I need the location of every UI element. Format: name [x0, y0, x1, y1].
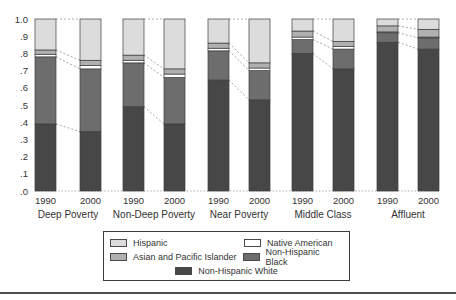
bar-segment: [35, 57, 56, 124]
bar-segment: [418, 49, 439, 191]
bar-segment: [164, 124, 185, 191]
bar-segment: [35, 54, 56, 57]
group-label: Non-Deep Poverty: [113, 209, 195, 220]
bar-segment: [249, 68, 270, 71]
connector-line: [144, 107, 164, 124]
bar-segment: [208, 48, 229, 51]
connector-line: [56, 124, 80, 132]
bar-segment: [292, 31, 313, 37]
connector-line: [313, 31, 333, 41]
bar-segment: [292, 53, 313, 191]
bar-segment: [208, 51, 229, 80]
connector-line: [56, 57, 80, 69]
connector-line: [398, 33, 418, 38]
group-label: Affluent: [391, 209, 425, 220]
bar-segment: [333, 69, 354, 191]
y-tick-label: .8: [20, 48, 28, 59]
legend-box: Hispanic Native American Asian and Pacif…: [103, 231, 350, 281]
connector-line: [313, 40, 333, 49]
bar-segment: [377, 19, 398, 26]
bar-segment: [164, 74, 185, 77]
y-tick-label: .1: [20, 168, 28, 179]
legend-item-non-hispanic-white: Non-Hispanic White: [175, 266, 278, 276]
bar-segment: [249, 71, 270, 100]
bar-segment: [377, 26, 398, 32]
bar-segment: [80, 69, 101, 132]
bar-segment: [249, 100, 270, 191]
legend-item-hispanic: Hispanic: [110, 238, 244, 248]
hispanic-swatch-icon: [110, 239, 127, 247]
group-label: Near Poverty: [210, 209, 268, 220]
bar-segment: [249, 63, 270, 68]
non-hispanic-black-swatch-icon: [243, 253, 260, 261]
legend-label-asian-pacific-islander: Asian and Pacific Islander: [133, 252, 237, 262]
bar-segment: [418, 19, 439, 29]
bar-segment: [164, 77, 185, 123]
bar-segment: [292, 19, 313, 31]
native-american-swatch-icon: [244, 239, 261, 247]
year-label: 1990: [377, 195, 398, 206]
bar-segment: [123, 63, 144, 107]
bar-segment: [123, 60, 144, 63]
bar-segment: [123, 55, 144, 60]
bar-segment: [80, 65, 101, 68]
y-tick-label: .7: [20, 65, 28, 76]
bar-segment: [333, 47, 354, 50]
legend-item-asian-pacific-islander: Asian and Pacific Islander: [110, 252, 243, 262]
bar-segment: [164, 19, 185, 69]
y-tick-label: .5: [20, 100, 28, 111]
y-tick-label: .6: [20, 82, 28, 93]
year-label: 2000: [164, 195, 185, 206]
bar-segment: [123, 19, 144, 55]
bar-segment: [249, 19, 270, 63]
bar-segment: [164, 69, 185, 74]
y-tick-label: 1.0: [15, 14, 28, 25]
bar-segment: [377, 42, 398, 191]
group-label: Deep Poverty: [38, 209, 99, 220]
connector-line: [144, 55, 164, 69]
bar-segment: [35, 124, 56, 191]
bar-segment: [35, 19, 56, 50]
bottom-rule: [0, 292, 456, 294]
year-label: 2000: [333, 195, 354, 206]
connector-line: [229, 51, 249, 71]
connector-line: [398, 42, 418, 49]
legend-label-hispanic: Hispanic: [133, 238, 168, 248]
connector-line: [398, 26, 418, 29]
bar-segment: [333, 49, 354, 69]
y-tick-label: .2: [20, 151, 28, 162]
group-label: Middle Class: [294, 209, 351, 220]
bar-segment: [208, 43, 229, 48]
y-tick-label: .4: [20, 117, 28, 128]
bar-segment: [292, 37, 313, 40]
y-tick-label: .0: [20, 186, 28, 197]
year-label: 2000: [80, 195, 101, 206]
bar-segment: [208, 80, 229, 191]
connector-line: [229, 80, 249, 100]
bar-segment: [333, 19, 354, 41]
year-label: 1990: [292, 195, 313, 206]
legend-label-non-hispanic-white: Non-Hispanic White: [198, 266, 278, 276]
bar-segment: [35, 50, 56, 54]
bar-segment: [80, 19, 101, 60]
connector-line: [313, 53, 333, 68]
bar-segment: [418, 38, 439, 49]
bar-segment: [80, 132, 101, 191]
legend-item-non-hispanic-black: Non-Hispanic Black: [243, 247, 343, 267]
connector-line: [144, 63, 164, 78]
bar-segment: [123, 107, 144, 191]
bar-segment: [292, 40, 313, 54]
y-tick-label: .9: [20, 31, 28, 42]
year-label: 1990: [123, 195, 144, 206]
asian-pacific-islander-swatch-icon: [110, 253, 127, 261]
non-hispanic-white-swatch-icon: [175, 267, 192, 275]
figure-page: 19902000Deep Poverty19902000Non-Deep Pov…: [0, 0, 456, 300]
year-label: 2000: [418, 195, 439, 206]
legend-row-2: Asian and Pacific Islander Non-Hispanic …: [110, 250, 343, 264]
connector-line: [229, 43, 249, 63]
legend-label-non-hispanic-black: Non-Hispanic Black: [266, 247, 343, 267]
bar-segment: [208, 19, 229, 43]
y-tick-label: .3: [20, 134, 28, 145]
bar-segment: [80, 60, 101, 65]
year-label: 1990: [208, 195, 229, 206]
